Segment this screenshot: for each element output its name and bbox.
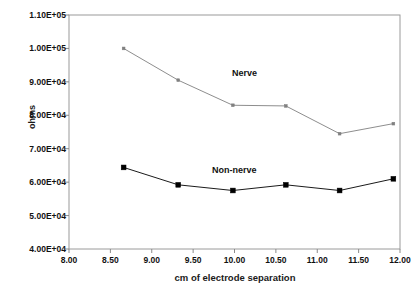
series-line — [124, 167, 394, 190]
y-tick-label: 9.00E+04 — [10, 77, 66, 87]
x-tick-label: 10.00 — [213, 255, 257, 265]
data-point-marker — [177, 79, 180, 82]
y-tick-label: 8.00E+04 — [10, 110, 66, 120]
y-tick-label: 5.00E+04 — [10, 211, 66, 221]
x-tick-label: 11.50 — [337, 255, 381, 265]
x-tick-label: 8.50 — [88, 255, 132, 265]
data-point-marker — [176, 182, 181, 187]
data-point-marker — [121, 165, 126, 170]
y-tick-label: 7.00E+04 — [10, 144, 66, 154]
x-tick-label: 8.00 — [47, 255, 91, 265]
y-axis-tick-labels: 4.00E+045.00E+046.00E+047.00E+048.00E+04… — [0, 0, 66, 293]
chart-container: ohms 4.00E+045.00E+046.00E+047.00E+048.0… — [0, 0, 415, 293]
series-annotation-nerve: Nerve — [232, 68, 257, 78]
data-point-marker — [122, 47, 125, 50]
data-point-marker — [231, 104, 234, 107]
series-nerve — [122, 47, 395, 135]
x-tick-label: 9.00 — [130, 255, 174, 265]
x-tick-label: 11.00 — [295, 255, 339, 265]
data-point-marker — [392, 122, 395, 125]
series-non-nerve — [121, 165, 396, 193]
data-point-marker — [338, 132, 341, 135]
data-point-marker — [337, 188, 342, 193]
series-annotation-non-nerve: Non-nerve — [212, 165, 257, 175]
data-point-marker — [230, 188, 235, 193]
y-tick-label: 6.00E+04 — [10, 177, 66, 187]
y-tick-label: 4.00E+04 — [10, 244, 66, 254]
y-tick-label: 1.00E+05 — [10, 43, 66, 53]
data-point-marker — [284, 105, 287, 108]
data-point-marker — [391, 176, 396, 181]
x-axis-title: cm of electrode separation — [69, 272, 401, 283]
x-tick-label: 10.50 — [254, 255, 298, 265]
x-tick-label: 9.50 — [171, 255, 215, 265]
y-tick-label: 1.10E+05 — [10, 10, 66, 20]
series-line — [124, 48, 394, 133]
x-tick-label: 12.00 — [378, 255, 415, 265]
data-point-marker — [283, 182, 288, 187]
